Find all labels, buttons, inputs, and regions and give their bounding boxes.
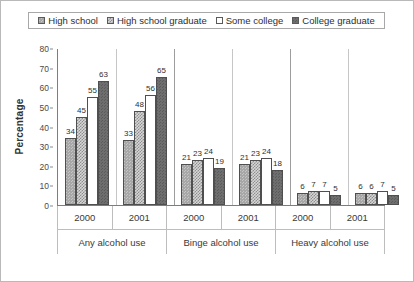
y-axis-tick-mark xyxy=(50,107,53,108)
bar-value-label: 55 xyxy=(88,87,97,95)
bar: 5 xyxy=(388,195,399,205)
x-axis-category-label: Any alcohol use xyxy=(58,230,166,254)
y-axis-tick-label: 50 xyxy=(40,104,49,113)
bar-value-label: 45 xyxy=(77,107,86,115)
bar-value-label: 21 xyxy=(240,154,249,162)
bar-value-label: 7 xyxy=(311,181,315,189)
legend-item: College graduate xyxy=(292,16,374,26)
y-axis-title-text: Percentage xyxy=(15,98,26,154)
bar-value-label: 56 xyxy=(146,85,155,93)
bar: 6 xyxy=(366,193,377,205)
bar-value-label: 63 xyxy=(99,71,108,79)
bar: 24 xyxy=(261,158,272,205)
legend-item-label: College graduate xyxy=(302,16,374,26)
bar-value-label: 24 xyxy=(204,148,213,156)
bar-value-label: 33 xyxy=(124,130,133,138)
x-axis-category-cell: 20002001Heavy alcohol use xyxy=(275,206,384,254)
y-axis-ticks: 80706050403020100 xyxy=(31,49,53,206)
legend-item: High school graduate xyxy=(107,16,207,26)
bar-value-label: 7 xyxy=(322,181,326,189)
bar-value-label: 24 xyxy=(262,148,271,156)
bar: 6 xyxy=(297,193,308,205)
bar-value-label: 5 xyxy=(333,185,337,193)
bar-value-label: 34 xyxy=(66,128,75,136)
x-axis-year-label: 2000 xyxy=(58,206,112,230)
y-axis-tick-mark xyxy=(50,68,53,69)
bar: 48 xyxy=(134,111,145,205)
bar-group: 6675 xyxy=(348,49,406,205)
plot-area: 3445556333485665212324192123241867756675 xyxy=(57,49,385,206)
bar: 55 xyxy=(87,97,98,205)
legend-item: High school xyxy=(38,16,98,26)
swatch-some-college-icon xyxy=(216,17,223,24)
bar: 24 xyxy=(203,158,214,205)
bar: 56 xyxy=(145,95,156,205)
swatch-high-school-graduate-icon xyxy=(107,17,114,24)
y-axis-tick-mark xyxy=(50,186,53,187)
bar-group: 34455563 xyxy=(58,49,116,205)
bar: 7 xyxy=(319,191,330,205)
y-axis-tick-label: 10 xyxy=(40,182,49,191)
x-axis-category-label: Binge alcohol use xyxy=(167,230,275,254)
chart-legend: High schoolHigh school graduateSome coll… xyxy=(28,12,385,29)
bar: 7 xyxy=(377,191,388,205)
bar-value-label: 21 xyxy=(182,154,191,162)
bar: 63 xyxy=(98,81,109,205)
y-axis-tick-mark xyxy=(50,147,53,148)
legend-item-label: High school graduate xyxy=(117,16,207,26)
y-axis-tick-mark xyxy=(50,88,53,89)
y-axis-tick-label: 20 xyxy=(40,163,49,172)
bar: 21 xyxy=(239,164,250,205)
bar-value-label: 23 xyxy=(251,150,260,158)
bar: 5 xyxy=(330,195,341,205)
bar-groups-container: 3445556333485665212324192123241867756675 xyxy=(58,49,385,205)
x-axis-category-label: Heavy alcohol use xyxy=(276,230,384,254)
bar-value-label: 6 xyxy=(369,183,373,191)
bar-group: 21232418 xyxy=(232,49,290,205)
x-axis-year-label: 2001 xyxy=(330,206,385,230)
bar: 21 xyxy=(181,164,192,205)
x-axis-category-cell: 20002001Any alcohol use xyxy=(58,206,166,254)
bar-chart-figure: High schoolHigh school graduateSome coll… xyxy=(0,0,414,282)
bar-value-label: 18 xyxy=(273,160,282,168)
bar-value-label: 19 xyxy=(215,158,224,166)
legend-item-label: Some college xyxy=(226,16,284,26)
x-axis-year-row: 20002001 xyxy=(167,206,275,230)
bar-value-label: 7 xyxy=(380,181,384,189)
y-axis-tick-label: 70 xyxy=(40,64,49,73)
bar-group: 33485665 xyxy=(116,49,174,205)
y-axis-tick-mark xyxy=(50,127,53,128)
x-axis-year-row: 20002001 xyxy=(58,206,166,230)
x-axis-year-label: 2001 xyxy=(221,206,276,230)
bar-value-label: 6 xyxy=(358,183,362,191)
bar-value-label: 48 xyxy=(135,101,144,109)
swatch-high-school-icon xyxy=(38,17,45,24)
bar: 18 xyxy=(272,170,283,205)
legend-item-label: High school xyxy=(48,16,98,26)
bar-value-label: 65 xyxy=(157,67,166,75)
bar: 34 xyxy=(65,138,76,205)
y-axis-tick-label: 80 xyxy=(40,45,49,54)
x-axis-year-label: 2001 xyxy=(112,206,167,230)
x-axis-category-cell: 20002001Binge alcohol use xyxy=(166,206,275,254)
x-axis-year-label: 2000 xyxy=(276,206,330,230)
y-axis-tick-label: 0 xyxy=(44,202,49,211)
bar: 23 xyxy=(192,160,203,205)
swatch-college-graduate-icon xyxy=(292,17,299,24)
y-axis-tick-label: 30 xyxy=(40,143,49,152)
y-axis-title: Percentage xyxy=(13,51,27,201)
y-axis-tick-label: 40 xyxy=(40,123,49,132)
bar-group: 21232419 xyxy=(174,49,232,205)
x-axis-year-label: 2000 xyxy=(167,206,221,230)
bar: 65 xyxy=(156,77,167,205)
x-axis-label-table: 20002001Any alcohol use20002001Binge alc… xyxy=(57,206,385,254)
bar: 33 xyxy=(123,140,134,205)
bar: 7 xyxy=(308,191,319,205)
y-axis-tick-label: 60 xyxy=(40,84,49,93)
bar: 6 xyxy=(355,193,366,205)
bar: 19 xyxy=(214,168,225,205)
bar-value-label: 5 xyxy=(391,185,395,193)
y-axis-tick-mark xyxy=(50,166,53,167)
bar: 45 xyxy=(76,117,87,205)
bar-group: 6775 xyxy=(290,49,348,205)
